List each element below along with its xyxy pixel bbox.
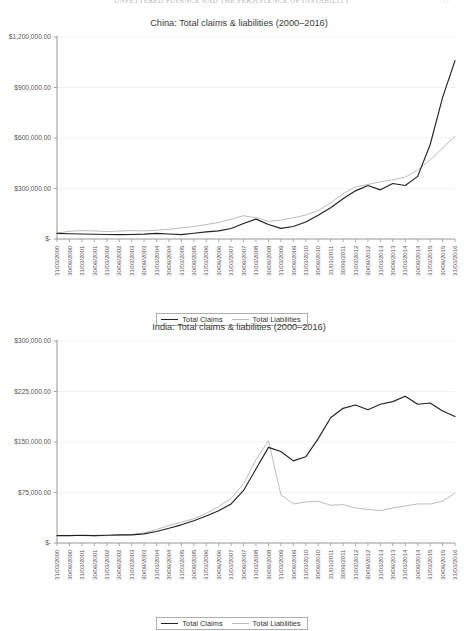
x-axis-tick-label: 31/03/2016 [451, 245, 458, 276]
y-axis-tick-label: $300,000.00 [14, 185, 51, 192]
x-axis-tick-label: 31/03/2004 [153, 549, 160, 580]
running-title: UNFETTERED FINANCE AND THE PERSISTENCE O… [114, 0, 350, 5]
legend-line-liabilities-icon [232, 623, 249, 624]
x-axis-tick-label: 30/09/2002 [115, 549, 122, 580]
legend-row-india: Total Claims Total Liabilities [0, 610, 464, 630]
x-axis-tick-label: 31/03/2002 [103, 245, 110, 276]
x-axis-tick-label: 31/03/2016 [451, 549, 458, 580]
x-axis-tick-label: 30/09/2012 [364, 245, 371, 276]
legend-item-total-claims: Total Claims [161, 619, 222, 628]
legend-line-liabilities-icon [232, 319, 249, 320]
x-axis-tick-label: 30/09/2000 [66, 245, 73, 276]
x-axis-tick-label: 31/03/2003 [128, 549, 135, 580]
x-axis-tick-label: 31/03/2007 [227, 245, 234, 276]
x-axis-tick-label: 31/03/2000 [53, 245, 60, 276]
x-axis-tick-label: 31/03/2007 [227, 549, 234, 580]
x-axis-tick-label: 31/03/2011 [327, 245, 334, 276]
x-axis-tick-label: 30/09/2006 [215, 245, 222, 276]
x-axis-tick-label: 30/09/2005 [190, 245, 197, 276]
x-axis-tick-label: 31/03/2010 [302, 245, 309, 276]
series-line-total-liabilities [57, 441, 455, 536]
x-axis-tick-label: 30/09/2013 [389, 549, 396, 580]
figure-india: India: Total claims & liabilities (2000–… [0, 322, 464, 627]
x-axis-tick-label: 31/03/2015 [426, 549, 433, 580]
x-axis-tick-label: 30/09/2014 [414, 549, 421, 580]
x-axis-tick-label: 31/03/2011 [327, 549, 334, 580]
x-axis-tick-label: 31/03/2013 [377, 549, 384, 580]
x-axis-tick-label: 30/09/2010 [314, 245, 321, 276]
x-axis-tick-label: 31/03/2001 [78, 549, 85, 580]
x-axis-tick-label: 31/03/2000 [53, 549, 60, 580]
y-axis-tick-label: $225,000.00 [14, 388, 51, 395]
x-axis-tick-label: 30/09/2007 [240, 549, 247, 580]
chart-legend-india: Total Claims Total Liabilities [156, 617, 307, 630]
legend-line-claims-icon [161, 623, 178, 624]
y-axis-tick-label: $- [45, 235, 51, 242]
x-axis-tick-label: 30/09/2013 [389, 245, 396, 276]
x-axis-tick-label: 31/03/2009 [277, 549, 284, 580]
y-axis-tick-label: $300,000.00 [14, 337, 51, 344]
x-axis-tick-label: 30/09/2000 [66, 549, 73, 580]
chart-canvas-india: $300,000.00$225,000.00$150,000.00$75,000… [0, 335, 464, 610]
x-axis-tick-label: 31/03/2002 [103, 549, 110, 580]
x-axis-tick-label: 30/09/2008 [265, 549, 272, 580]
x-axis-tick-label: 31/03/2012 [352, 245, 359, 276]
page-number: 77 [442, 0, 450, 5]
x-axis-tick-label: 30/09/2011 [339, 549, 346, 580]
legend-label-claims: Total Claims [182, 619, 222, 628]
x-axis-tick-label: 30/09/2011 [339, 245, 346, 276]
x-axis-tick-label: 31/03/2012 [352, 549, 359, 580]
x-axis-tick-label: 30/09/2015 [439, 245, 446, 276]
x-axis-tick-label: 31/03/2013 [377, 245, 384, 276]
x-axis-tick-label: 30/09/2006 [215, 549, 222, 580]
y-axis-tick-label: $- [45, 539, 51, 546]
chart-title-india: India: Total claims & liabilities (2000–… [0, 322, 464, 332]
x-axis-tick-label: 31/03/2008 [252, 549, 259, 580]
x-axis-tick-label: 31/03/2014 [401, 549, 408, 580]
page-running-header: UNFETTERED FINANCE AND THE PERSISTENCE O… [0, 0, 464, 11]
legend-label-liabilities: Total Liabilities [253, 619, 301, 628]
x-axis-tick-label: 30/09/2010 [314, 549, 321, 580]
x-axis-tick-label: 30/09/2008 [265, 245, 272, 276]
series-line-total-claims [57, 396, 455, 535]
x-axis-tick-label: 30/09/2002 [115, 245, 122, 276]
legend-line-claims-icon [161, 319, 178, 320]
x-axis-tick-label: 31/03/2001 [78, 245, 85, 276]
x-axis-tick-label: 31/03/2004 [153, 245, 160, 276]
x-axis-tick-label: 31/03/2005 [178, 245, 185, 276]
legend-item-total-liabilities: Total Liabilities [232, 619, 301, 628]
x-axis-tick-label: 30/09/2007 [240, 245, 247, 276]
series-line-total-claims [57, 61, 455, 235]
y-axis-tick-label: $600,000.00 [14, 134, 51, 141]
plot-china: $1,200,000.00$900,000.00$600,000.00$300,… [0, 31, 464, 306]
y-axis-tick-label: $150,000.00 [14, 438, 51, 445]
chart-title-china: China: Total claims & liabilities (2000–… [0, 18, 464, 28]
y-axis-tick-label: $900,000.00 [14, 84, 51, 91]
x-axis-tick-label: 31/03/2010 [302, 549, 309, 580]
x-axis-tick-label: 30/09/2004 [165, 245, 172, 276]
x-axis-tick-label: 31/03/2003 [128, 245, 135, 276]
x-axis-tick-label: 30/09/2004 [165, 549, 172, 580]
y-axis-tick-label: $75,000.00 [18, 489, 51, 496]
x-axis-tick-label: 31/03/2014 [401, 245, 408, 276]
chart-canvas-china: $1,200,000.00$900,000.00$600,000.00$300,… [0, 31, 464, 306]
x-axis-tick-label: 31/03/2009 [277, 245, 284, 276]
x-axis-tick-label: 30/09/2003 [140, 549, 147, 580]
figure-china: China: Total claims & liabilities (2000–… [0, 18, 464, 318]
x-axis-tick-label: 30/09/2014 [414, 245, 421, 276]
x-axis-tick-label: 31/03/2006 [202, 245, 209, 276]
x-axis-tick-label: 30/09/2003 [140, 245, 147, 276]
x-axis-tick-label: 31/03/2005 [178, 549, 185, 580]
x-axis-tick-label: 31/03/2008 [252, 245, 259, 276]
x-axis-tick-label: 30/09/2009 [290, 245, 297, 276]
plot-india: $300,000.00$225,000.00$150,000.00$75,000… [0, 335, 464, 610]
x-axis-tick-label: 30/09/2001 [91, 549, 98, 580]
x-axis-tick-label: 31/03/2015 [426, 245, 433, 276]
x-axis-tick-label: 31/03/2006 [202, 549, 209, 580]
x-axis-tick-label: 30/09/2001 [91, 245, 98, 276]
y-axis-tick-label: $1,200,000.00 [9, 33, 52, 40]
x-axis-tick-label: 30/09/2009 [290, 549, 297, 580]
x-axis-tick-label: 30/09/2012 [364, 549, 371, 580]
x-axis-tick-label: 30/09/2015 [439, 549, 446, 580]
x-axis-tick-label: 30/09/2005 [190, 549, 197, 580]
